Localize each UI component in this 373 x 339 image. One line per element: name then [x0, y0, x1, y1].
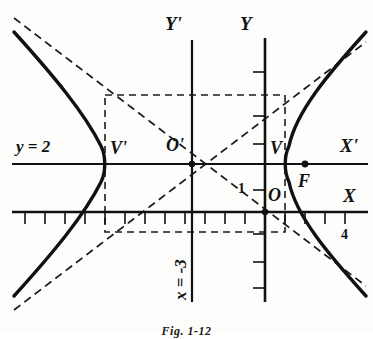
label-tick-x-four: 4 — [341, 228, 348, 242]
label-y-prime-axis: Y' — [165, 14, 182, 33]
y-axis-ticks — [253, 72, 265, 288]
label-y-equals-2: y = 2 — [16, 138, 50, 155]
asymptote-negative-slope — [14, 18, 366, 286]
label-x-axis: X — [343, 186, 356, 205]
label-origin-prime: O' — [166, 136, 184, 154]
label-vertex-right: V — [270, 139, 282, 157]
label-tick-y-one: 1 — [238, 182, 245, 196]
y-axis — [253, 38, 265, 302]
point-origin-marker — [262, 209, 268, 215]
label-x-prime-axis: X' — [340, 136, 358, 155]
x-axis-ticks — [25, 212, 345, 224]
figure-caption: Fig. 1-12 — [0, 324, 373, 339]
label-origin: O — [268, 186, 281, 204]
label-focus: F — [298, 172, 310, 190]
asymptote-positive-slope — [14, 42, 366, 310]
label-x-equals-minus-3: x = -3 — [172, 259, 189, 300]
x-axis — [12, 212, 368, 224]
point-origin-prime-marker — [189, 161, 195, 167]
point-focus-marker — [302, 161, 309, 168]
label-vertex-left: V' — [110, 139, 127, 157]
label-y-axis: Y — [240, 14, 252, 33]
